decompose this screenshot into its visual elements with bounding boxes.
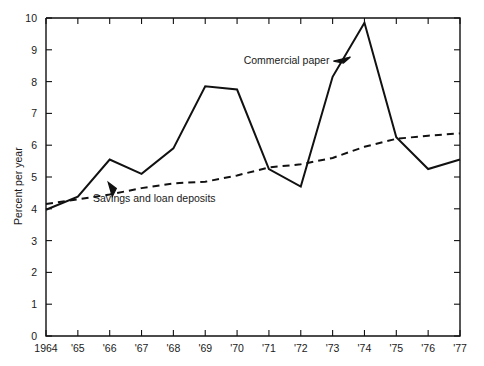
chart-annotations: Commercial paperSavings and loan deposit… xyxy=(93,54,350,204)
y-tick-label: 10 xyxy=(25,12,37,24)
x-tick-label: '66 xyxy=(103,342,117,354)
x-tick-label: '75 xyxy=(389,342,403,354)
y-tick-label: 4 xyxy=(31,203,37,215)
y-tick-label: 7 xyxy=(31,107,37,119)
x-tick-label: '65 xyxy=(71,342,85,354)
y-tick-label: 1 xyxy=(31,298,37,310)
y-axis-tick-labels: 012345678910 xyxy=(25,12,37,342)
x-tick-label: '69 xyxy=(198,342,212,354)
y-tick-label: 2 xyxy=(31,266,37,278)
y-tick-label: 9 xyxy=(31,44,37,56)
x-tick-label: 1964 xyxy=(34,342,58,354)
y-tick-label: 5 xyxy=(31,171,37,183)
annotation-label-commercial-paper: Commercial paper xyxy=(244,54,330,66)
x-tick-label: '71 xyxy=(262,342,276,354)
x-axis-tick-labels: 1964'65'66'67'68'69'70'71'72'73'74'75'76… xyxy=(34,342,467,354)
x-tick-label: '76 xyxy=(421,342,435,354)
y-axis-title: Percent per year xyxy=(12,147,24,225)
y-tick-label: 0 xyxy=(31,330,37,342)
y-tick-label: 6 xyxy=(31,139,37,151)
y-tick-label: 3 xyxy=(31,235,37,247)
line-chart: 012345678910 1964'65'66'67'68'69'70'71'7… xyxy=(0,0,484,366)
x-tick-label: '68 xyxy=(167,342,181,354)
x-tick-label: '72 xyxy=(294,342,308,354)
annotation-pointer xyxy=(333,57,350,63)
x-tick-label: '73 xyxy=(326,342,340,354)
x-tick-label: '67 xyxy=(135,342,149,354)
x-tick-label: '70 xyxy=(230,342,244,354)
chart-figure: 012345678910 1964'65'66'67'68'69'70'71'7… xyxy=(0,0,484,366)
x-tick-label: '77 xyxy=(453,342,467,354)
y-tick-label: 8 xyxy=(31,76,37,88)
x-tick-label: '74 xyxy=(358,342,372,354)
